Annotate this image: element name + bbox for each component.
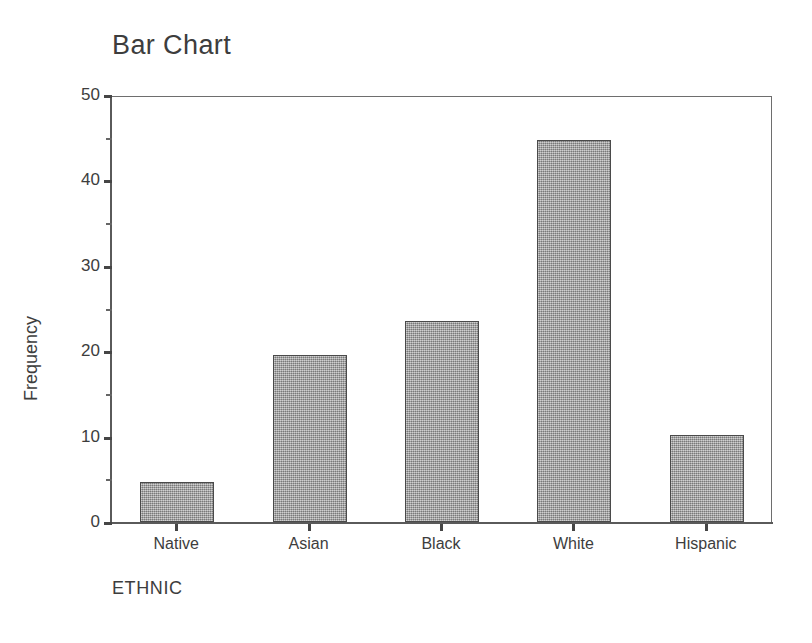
y-tick-label-wrap: 20 bbox=[56, 352, 100, 353]
y-tick-label-0: 0 bbox=[60, 512, 100, 532]
x-tick-black bbox=[440, 524, 443, 531]
y-tick-label-wrap: 30 bbox=[56, 267, 100, 268]
y-tick-minor-25 bbox=[106, 309, 112, 311]
y-tick-10 bbox=[104, 437, 112, 440]
y-tick-minor-35 bbox=[106, 223, 112, 225]
y-tick-label-30: 30 bbox=[60, 256, 100, 276]
y-tick-40 bbox=[104, 180, 112, 183]
x-tick-white bbox=[572, 524, 575, 531]
bars-container bbox=[111, 97, 771, 522]
x-tick-label-white: White bbox=[553, 535, 594, 553]
y-tick-label-20: 20 bbox=[60, 341, 100, 361]
y-tick-label-wrap: 40 bbox=[56, 181, 100, 182]
bar-native bbox=[140, 482, 214, 522]
x-tick-native bbox=[175, 524, 178, 531]
bar-white bbox=[537, 140, 611, 522]
y-axis-title: Frequency bbox=[21, 261, 42, 401]
y-tick-label-wrap: 0 bbox=[56, 523, 100, 524]
y-tick-20 bbox=[104, 351, 112, 354]
y-tick-0 bbox=[104, 522, 112, 525]
y-tick-label-50: 50 bbox=[60, 85, 100, 105]
x-tick-label-hispanic: Hispanic bbox=[675, 535, 736, 553]
bar-hispanic bbox=[670, 435, 744, 522]
x-axis-title: ETHNIC bbox=[112, 578, 183, 599]
x-tick-hispanic bbox=[705, 524, 708, 531]
chart-title: Bar Chart bbox=[112, 30, 231, 61]
x-tick-label-native: Native bbox=[154, 535, 199, 553]
x-tick-label-asian: Asian bbox=[289, 535, 329, 553]
x-tick-label-black: Black bbox=[421, 535, 460, 553]
y-tick-minor-45 bbox=[106, 138, 112, 140]
y-tick-label-10: 10 bbox=[60, 427, 100, 447]
y-tick-minor-15 bbox=[106, 394, 112, 396]
plot-area bbox=[110, 96, 772, 523]
bar-black bbox=[405, 321, 479, 522]
y-tick-minor-5 bbox=[106, 479, 112, 481]
bar-asian bbox=[273, 355, 347, 522]
y-tick-30 bbox=[104, 266, 112, 269]
bar-chart-figure: Bar Chart Frequency ETHNIC 01020304050 N… bbox=[0, 0, 812, 643]
y-tick-label-40: 40 bbox=[60, 170, 100, 190]
y-tick-label-wrap: 50 bbox=[56, 96, 100, 97]
y-tick-50 bbox=[104, 95, 112, 98]
x-tick-asian bbox=[308, 524, 311, 531]
y-tick-label-wrap: 10 bbox=[56, 438, 100, 439]
